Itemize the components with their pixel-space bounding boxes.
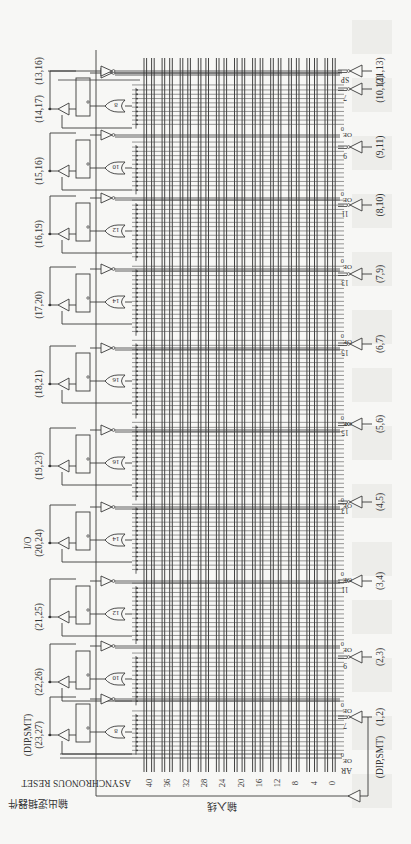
input-tick-label: 24 xyxy=(217,778,227,787)
or-term-count: 14 xyxy=(112,535,120,543)
output-buffer-icon xyxy=(58,299,69,311)
input-pin-label: (6,7) xyxy=(375,335,386,353)
bleed-through-text xyxy=(352,20,392,808)
input-tick-label: 36 xyxy=(162,779,172,788)
oe-label: OE xyxy=(343,196,352,204)
term-label: 15 xyxy=(341,348,349,357)
oe-label: OE xyxy=(343,707,352,715)
output-buffer-icon xyxy=(58,729,69,741)
inverter-bubble xyxy=(112,268,115,271)
or-term-count: 16 xyxy=(112,458,120,466)
output-buffer-icon xyxy=(58,611,69,623)
input-pin-label: (1,2) xyxy=(375,708,386,726)
bleed-through-block xyxy=(352,194,392,228)
ff-clock-bubble xyxy=(87,297,89,299)
inverter-bubble xyxy=(112,429,115,432)
term-label: 11 xyxy=(341,585,348,594)
flip-flop-box xyxy=(76,704,90,742)
ff-clock-bubble xyxy=(87,674,89,676)
term-label: 9 xyxy=(343,661,347,670)
pal-logic-diagram: 8(14,17)10(15,16)12(16,19)14(17,20)16(18… xyxy=(0,0,411,844)
input-lines-title: 输入线 xyxy=(207,801,237,813)
bleed-through-block xyxy=(352,600,392,634)
ff-clock-bubble xyxy=(87,609,89,611)
inverter-bubble xyxy=(347,70,350,73)
or-term-count: 16 xyxy=(112,376,120,384)
oe-label: OE xyxy=(343,131,352,139)
output-buffer-icon xyxy=(58,378,69,390)
bleed-through-block xyxy=(352,252,392,286)
ff-clock-bubble xyxy=(87,727,89,729)
macrocell-5: 16(19,23) xyxy=(34,425,340,485)
macrocell-9: 8(23,27)(DIP,SMT) xyxy=(23,694,340,756)
flip-flop-box xyxy=(76,435,90,473)
flip-flop-box xyxy=(76,78,90,116)
bleed-through-block xyxy=(352,426,392,460)
feedback-buffer-icon xyxy=(101,694,112,704)
output-buffer-icon xyxy=(58,676,69,688)
ff-clock-bubble xyxy=(87,101,89,103)
inverter-bubble xyxy=(347,273,350,276)
input-pin-label: (3,4) xyxy=(375,572,386,590)
output-buffer-icon xyxy=(58,537,69,549)
top-pin-label: (13,16) xyxy=(34,57,45,85)
input-tick-label: 20 xyxy=(236,779,246,788)
macrocell-pin-label: (21,25) xyxy=(34,603,45,631)
inverter-bubble xyxy=(347,88,350,91)
inverter-bubble xyxy=(112,347,115,350)
macrocell-pin-label: (18,21) xyxy=(34,370,45,398)
term-label: 11 xyxy=(341,209,348,218)
macrocell-0: 8(14,17) xyxy=(34,68,340,128)
feedback-buffer-icon xyxy=(101,502,112,512)
input-tick-label: 12 xyxy=(272,779,282,788)
oe-label: OE xyxy=(343,576,352,584)
input-buffer-icon xyxy=(350,65,362,77)
input-pin-label: (9,11) xyxy=(375,136,386,159)
input-pin-label: (8,10) xyxy=(375,194,386,217)
feedback-buffer-icon xyxy=(101,130,112,140)
input-tick-label: 8 xyxy=(290,781,300,785)
inverter-bubble xyxy=(112,580,115,583)
inverter-bubble xyxy=(347,146,350,149)
macrocell-pin-label: (15,16) xyxy=(34,157,45,185)
asynchronous-reset-label: ASYNCHRONOUS RESET xyxy=(21,778,131,788)
oe-label: OE xyxy=(343,646,352,654)
input-pin-label: (10,12) xyxy=(375,75,386,103)
macrocell-pin-label: (19,23) xyxy=(34,452,45,480)
input-pin-prefix: (DIP,SMT) xyxy=(375,736,386,779)
ff-clock-bubble xyxy=(87,163,89,165)
output-buffer-icon xyxy=(58,103,69,115)
ff-clock-bubble xyxy=(87,535,89,537)
flip-flop-box xyxy=(76,274,90,312)
feedback-buffer-icon xyxy=(101,425,112,435)
input-pin-label: (5,6) xyxy=(375,415,386,433)
macrocell-3: 14(17,20) xyxy=(34,264,340,324)
macrocell-6: 14(20,24)I/O xyxy=(23,502,340,562)
or-term-count: 12 xyxy=(112,226,120,234)
or-term-count: 10 xyxy=(112,674,120,682)
output-logic-label: 输出逻辑器件 xyxy=(8,798,68,810)
or-term-count: 10 xyxy=(112,163,120,171)
feedback-buffer-icon xyxy=(101,576,112,586)
oe-label: OE xyxy=(343,757,352,765)
macrocell-pin-label: (20,24) xyxy=(34,529,45,557)
input-tick-label: 32 xyxy=(181,779,191,788)
oe-label: OE xyxy=(343,338,352,346)
term-label: 13 xyxy=(341,278,349,287)
input-tick-label: 28 xyxy=(199,779,209,788)
bleed-through-block xyxy=(352,658,392,692)
input-tick-label: 40 xyxy=(144,779,154,788)
or-term-count: 8 xyxy=(114,101,118,109)
inverter-bubble xyxy=(112,506,115,509)
inverter-bubble xyxy=(347,656,350,659)
inverter-bubble xyxy=(112,645,115,648)
flip-flop-box xyxy=(76,512,90,550)
macrocell-pin-label: (16,19) xyxy=(34,220,45,248)
and-array-grid xyxy=(132,58,344,772)
flip-flop-box xyxy=(76,203,90,241)
input-pin-label: (7,9) xyxy=(375,265,386,283)
macrocell-pin-prefix: (DIP,SMT) xyxy=(23,714,34,757)
oe-label: OE xyxy=(343,420,352,428)
bleed-through-block xyxy=(352,310,392,344)
inverter-bubble xyxy=(112,70,115,73)
